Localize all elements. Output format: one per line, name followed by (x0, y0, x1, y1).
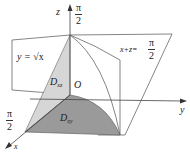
region-dxy-label: Dxy (60, 113, 73, 124)
x-intercept-fraction: π 2 (6, 109, 13, 132)
y-axis-arrow-icon (180, 99, 187, 104)
z-axis-label: z (56, 7, 60, 17)
x-axis-label: x (14, 143, 18, 151)
region-dxz-label: Dxz (50, 77, 62, 88)
surface-left-label: y = √x (17, 52, 44, 62)
diagram-svg (0, 0, 190, 152)
origin-label: O (74, 80, 81, 90)
plane-fraction: π 2 (148, 38, 155, 61)
y-axis-label: y (180, 105, 184, 115)
x-axis-arrow-icon (5, 142, 12, 149)
diagram-canvas: z π 2 y = √x x+z= π 2 Dxz O Dxy π 2 x y (0, 0, 190, 152)
plane-label: x+z= (120, 46, 137, 54)
z-axis-arrow-icon (68, 4, 73, 11)
z-intercept-fraction: π 2 (75, 3, 82, 26)
